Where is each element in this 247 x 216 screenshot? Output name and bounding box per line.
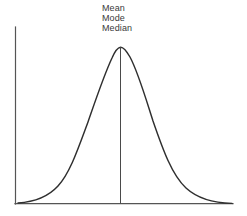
label-median: Median	[102, 23, 182, 33]
normal-distribution-figure: Mean Mode Median	[0, 0, 247, 216]
center-statistics-labels: Mean Mode Median	[102, 3, 182, 33]
label-mean: Mean	[102, 3, 182, 13]
label-mode: Mode	[102, 13, 182, 23]
